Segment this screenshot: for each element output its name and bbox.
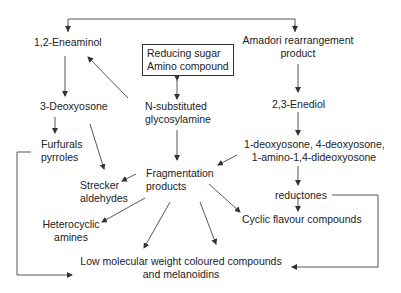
node-enediol: 2,3-Enediol — [272, 98, 325, 111]
node-line: glycosylamine — [145, 113, 211, 126]
node-line: Heterocyclic — [38, 218, 104, 231]
node-furfurals-pyrroles: Furfurals pyrroles — [41, 138, 82, 164]
node-line: products — [146, 180, 214, 193]
node-line: Amino compound — [147, 60, 229, 73]
node-line: and melanoidins — [76, 268, 286, 281]
node-reductones: reductones — [275, 189, 327, 202]
node-line: Amadori rearrangement — [240, 34, 356, 47]
node-melanoidins: Low molecular weight coloured compounds … — [76, 255, 286, 281]
node-line: pyrroles — [41, 151, 82, 164]
node-line: aldehydes — [80, 192, 128, 205]
node-line: Low molecular weight coloured compounds — [76, 255, 286, 268]
node-line: 1-deoxyosone, 4-deoxyosone, — [244, 138, 384, 151]
node-glycosylamine: N-substituted glycosylamine — [145, 100, 211, 126]
node-line: Fragmentation — [146, 167, 214, 180]
node-eneaminol: 1,2-Eneaminol — [34, 36, 102, 49]
node-line: Strecker — [80, 179, 128, 192]
maillard-reaction-diagram: Reducing sugar Amino compound 1,2-Eneami… — [0, 0, 401, 293]
node-amadori-product: Amadori rearrangement product — [240, 34, 356, 60]
edge-glycosylamine-eneaminol — [88, 57, 128, 98]
top-bracket-edge — [68, 19, 295, 32]
node-line: Reducing sugar — [147, 47, 229, 60]
node-line: product — [240, 47, 356, 60]
node-cyclic-flavour-compounds: Cyclic flavour compounds — [242, 213, 362, 226]
node-line: amines — [38, 231, 104, 244]
node-deoxyosones: 1-deoxyosone, 4-deoxyosone, 1-amino-1,4-… — [244, 138, 384, 164]
node-fragmentation-products: Fragmentation products — [146, 167, 214, 193]
node-line: 1-amino-1,4-dideoxyosone — [244, 151, 384, 164]
node-reducing-sugar-amino-compound: Reducing sugar Amino compound — [142, 44, 234, 76]
node-3-deoxyosone: 3-Deoxyosone — [40, 100, 108, 113]
node-line: Furfurals — [41, 138, 82, 151]
node-strecker-aldehydes: Strecker aldehydes — [80, 179, 128, 205]
node-line: N-substituted — [145, 100, 211, 113]
node-heterocyclic-amines: Heterocyclic amines — [38, 218, 104, 244]
